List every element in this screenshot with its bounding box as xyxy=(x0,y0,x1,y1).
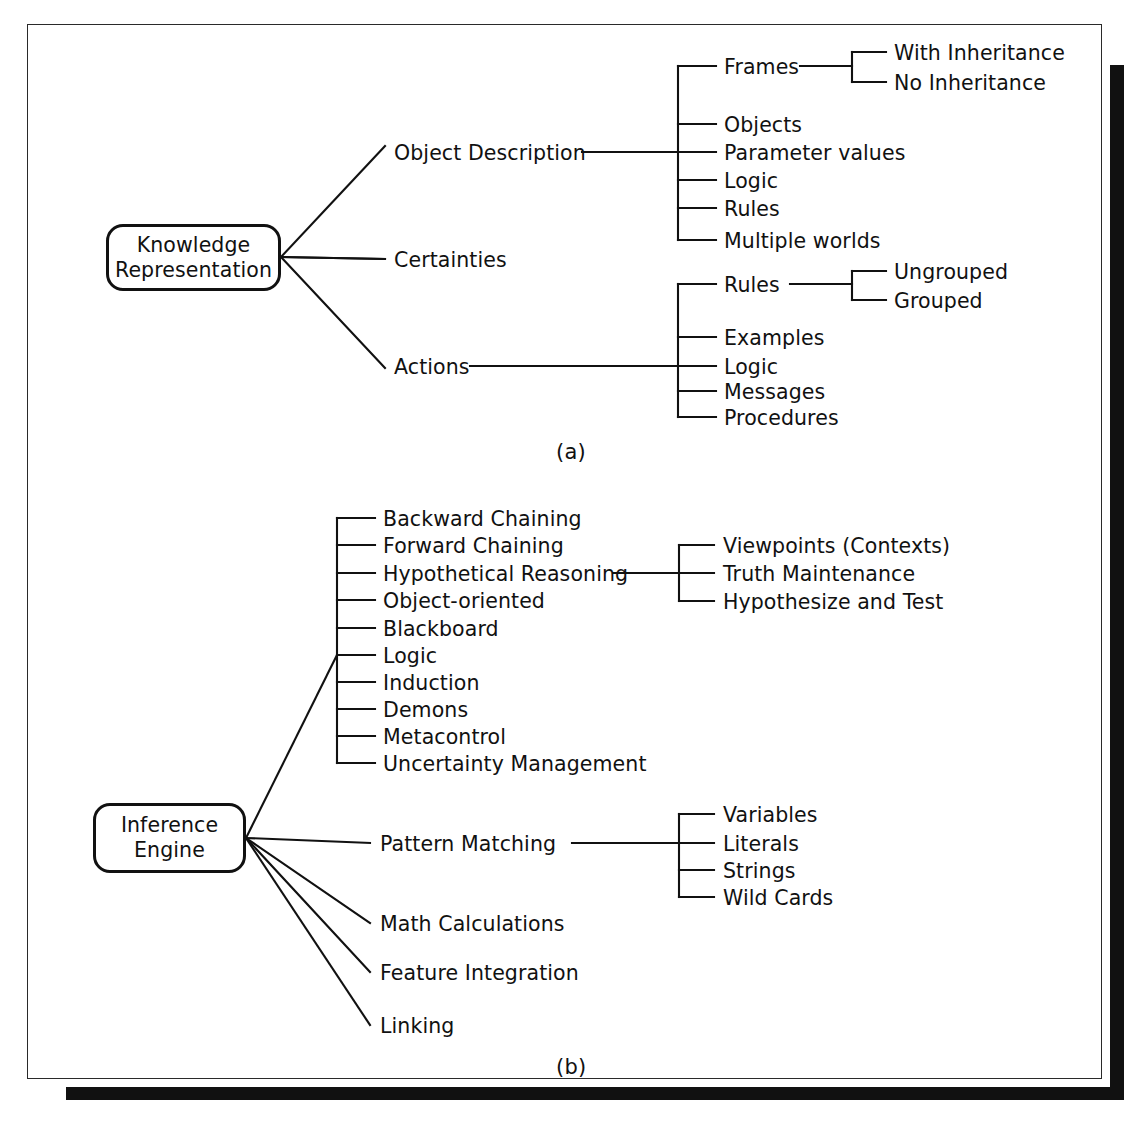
label-rules-ungrouped[interactable]: Ungrouped xyxy=(894,262,1008,283)
label-method-object-oriented[interactable]: Object-oriented xyxy=(383,591,545,612)
label-actions-messages[interactable]: Messages xyxy=(724,382,825,403)
label-actions-rules[interactable]: Rules xyxy=(724,275,780,296)
caption-b: (b) xyxy=(556,1055,586,1079)
label-pm-literals[interactable]: Literals xyxy=(723,834,799,855)
label-od-frames[interactable]: Frames xyxy=(724,57,799,78)
label-pm-strings[interactable]: Strings xyxy=(723,861,796,882)
label-method-forward-chaining[interactable]: Forward Chaining xyxy=(383,536,564,557)
node-inference-engine[interactable]: Inference Engine xyxy=(93,803,246,873)
caption-a: (a) xyxy=(556,440,586,464)
node-inference-engine-line2: Engine xyxy=(134,838,205,863)
label-certainties[interactable]: Certainties xyxy=(394,250,507,271)
node-knowledge-representation-line1: Knowledge xyxy=(137,233,251,258)
label-object-description[interactable]: Object Description xyxy=(394,143,586,164)
node-inference-engine-line1: Inference xyxy=(121,813,218,838)
label-od-parameter-values[interactable]: Parameter values xyxy=(724,143,905,164)
label-pattern-matching[interactable]: Pattern Matching xyxy=(380,834,556,855)
label-pm-wild-cards[interactable]: Wild Cards xyxy=(723,888,833,909)
label-math-calculations[interactable]: Math Calculations xyxy=(380,914,565,935)
label-hr-truth-maintenance[interactable]: Truth Maintenance xyxy=(723,564,915,585)
label-od-objects[interactable]: Objects xyxy=(724,115,802,136)
label-od-logic[interactable]: Logic xyxy=(724,171,778,192)
label-actions-procedures[interactable]: Procedures xyxy=(724,408,839,429)
label-rules-grouped[interactable]: Grouped xyxy=(894,291,983,312)
label-actions[interactable]: Actions xyxy=(394,357,470,378)
label-method-induction[interactable]: Induction xyxy=(383,673,479,694)
label-hr-hypothesize-and-test[interactable]: Hypothesize and Test xyxy=(723,592,943,613)
label-method-metacontrol[interactable]: Metacontrol xyxy=(383,727,506,748)
label-actions-examples[interactable]: Examples xyxy=(724,328,824,349)
label-linking[interactable]: Linking xyxy=(380,1016,454,1037)
node-knowledge-representation[interactable]: Knowledge Representation xyxy=(106,224,281,291)
label-frames-no-inheritance[interactable]: No Inheritance xyxy=(894,73,1046,94)
label-method-blackboard[interactable]: Blackboard xyxy=(383,619,499,640)
label-od-rules[interactable]: Rules xyxy=(724,199,780,220)
label-method-backward-chaining[interactable]: Backward Chaining xyxy=(383,509,582,530)
label-hr-viewpoints-contexts[interactable]: Viewpoints (Contexts) xyxy=(723,536,950,557)
label-feature-integration[interactable]: Feature Integration xyxy=(380,963,579,984)
figure-page: Knowledge Representation Object Descript… xyxy=(0,0,1144,1133)
label-method-logic[interactable]: Logic xyxy=(383,646,437,667)
label-actions-logic[interactable]: Logic xyxy=(724,357,778,378)
label-method-hypothetical-reasoning[interactable]: Hypothetical Reasoning xyxy=(383,564,628,585)
label-frames-with-inheritance[interactable]: With Inheritance xyxy=(894,43,1065,64)
label-od-multiple-worlds[interactable]: Multiple worlds xyxy=(724,231,881,252)
node-knowledge-representation-line2: Representation xyxy=(115,258,272,283)
label-method-demons[interactable]: Demons xyxy=(383,700,468,721)
label-pm-variables[interactable]: Variables xyxy=(723,805,818,826)
label-method-uncertainty-management[interactable]: Uncertainty Management xyxy=(383,754,647,775)
